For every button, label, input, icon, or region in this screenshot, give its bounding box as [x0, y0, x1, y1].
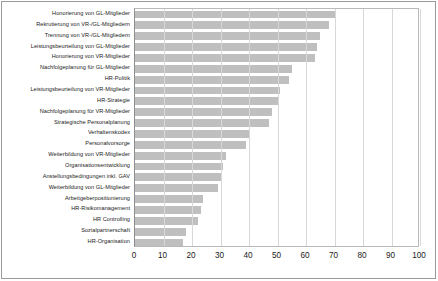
gridline — [335, 9, 336, 246]
category-label: HR-Strategie — [97, 97, 130, 104]
bar — [135, 141, 246, 149]
category-label: Weiterbildung von VR-Mitglieder — [48, 151, 130, 158]
bar-row — [135, 184, 218, 192]
gridline — [221, 9, 222, 246]
gridline — [420, 9, 421, 246]
bar — [135, 76, 289, 84]
gridline — [249, 9, 250, 246]
bar-row — [135, 163, 223, 171]
bar-row — [135, 97, 278, 105]
bar-row — [135, 11, 335, 19]
x-tick-label: 70 — [329, 250, 338, 261]
bar-row — [135, 76, 289, 84]
gridline — [278, 9, 279, 246]
bar — [135, 108, 272, 116]
category-label: Honorierung von GL-Mitglieder — [52, 10, 130, 17]
category-label: HR-Organisation — [88, 238, 130, 245]
bar-row — [135, 239, 183, 247]
category-label: Rekrutierung von VR-/GL-Mitgliedern — [36, 21, 130, 28]
bar — [135, 217, 198, 225]
x-tick-label: 100 — [412, 250, 426, 261]
category-label: Weiterbildung von GL-Mitglieder — [49, 184, 130, 191]
bar-row — [135, 108, 272, 116]
gridline — [392, 9, 393, 246]
category-label: Trennung von VR-/GL-Mitgliedern — [45, 32, 130, 39]
category-label: Strategische Personalplanung — [54, 119, 130, 126]
category-label: Honorierung von VR-Mitglieder — [52, 53, 130, 60]
bar — [135, 239, 183, 247]
bar-row — [135, 43, 317, 51]
bar-row — [135, 206, 201, 214]
bar — [135, 152, 226, 160]
bar — [135, 54, 315, 62]
bar — [135, 163, 223, 171]
category-axis-labels: Honorierung von GL-MitgliederRekrutierun… — [4, 8, 132, 247]
bar — [135, 228, 186, 236]
x-axis-tick-labels: 0102030405060708090100 — [0, 250, 438, 266]
category-label: Sozialpartnerschaft — [81, 227, 130, 234]
category-label: HR Controlling — [93, 216, 130, 223]
plot-area — [134, 8, 419, 247]
chart-body: Honorierung von GL-MitgliederRekrutierun… — [0, 0, 438, 281]
bar — [135, 195, 203, 203]
x-tick-label: 20 — [186, 250, 195, 261]
category-label: HR-Risikomanagement — [71, 205, 130, 212]
x-tick-label: 50 — [272, 250, 281, 261]
bar-chart: Honorierung von GL-MitgliederRekrutierun… — [0, 0, 438, 281]
category-label: Anstellungsbedingungen inkl. GAV — [43, 173, 130, 180]
bar — [135, 43, 317, 51]
bar-row — [135, 217, 198, 225]
bar-row — [135, 228, 186, 236]
bars-container — [135, 9, 418, 246]
bar — [135, 97, 278, 105]
bar — [135, 173, 221, 181]
category-label: Leistungsbeurteilung von VR-Mitglieder — [30, 86, 130, 93]
category-label: Nachfolgeplanung für VR-Mitglieder — [40, 108, 130, 115]
category-label: Verhaltenskodex — [88, 129, 130, 136]
category-label: Organisationsentwicklung — [65, 162, 130, 169]
bar-row — [135, 152, 226, 160]
bar — [135, 11, 335, 19]
bar-row — [135, 141, 246, 149]
gridline — [306, 9, 307, 246]
category-label: HR-Politik — [105, 75, 130, 82]
category-label: Nachfolgeplanung für GL-Mitglieder — [40, 64, 130, 71]
x-tick-label: 40 — [243, 250, 252, 261]
x-tick-label: 80 — [357, 250, 366, 261]
bar — [135, 65, 292, 73]
bar-row — [135, 65, 292, 73]
bar-row — [135, 87, 280, 95]
category-label: Leistungsbeurteilung von GL-Mitglieder — [31, 43, 130, 50]
x-tick-label: 60 — [300, 250, 309, 261]
bar — [135, 206, 201, 214]
x-tick-label: 90 — [386, 250, 395, 261]
bar — [135, 87, 280, 95]
gridline — [164, 9, 165, 246]
x-tick-label: 0 — [132, 250, 137, 261]
category-label: Arbeitgeberpositionierung — [65, 195, 130, 202]
bar-row — [135, 195, 203, 203]
x-tick-label: 30 — [215, 250, 224, 261]
gridline — [363, 9, 364, 246]
bar-row — [135, 173, 221, 181]
x-tick-label: 10 — [158, 250, 167, 261]
bar — [135, 184, 218, 192]
category-label: Personalvorsorge — [85, 140, 130, 147]
bar-row — [135, 54, 315, 62]
gridline — [192, 9, 193, 246]
